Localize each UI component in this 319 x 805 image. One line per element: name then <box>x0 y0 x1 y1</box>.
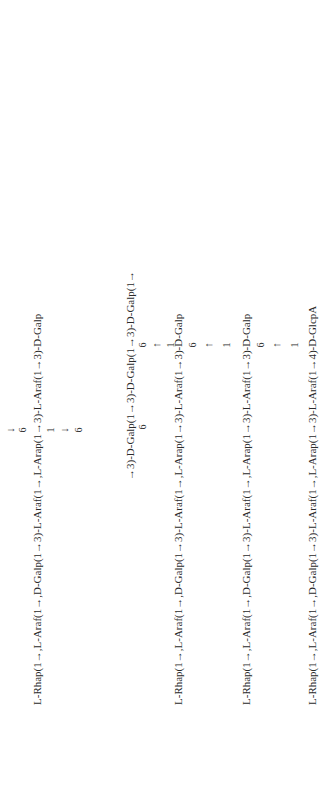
backbone-branch-2: 6 <box>137 343 148 348</box>
side-chain-2-link-arrow: ↑ <box>202 342 214 348</box>
side-chain-3-text: L-Rhap(1→,L-Araf(1→,D-Galp(1→3)-L-Araf(1… <box>306 306 319 705</box>
side-chain-3-link-from: 1 <box>289 343 300 348</box>
diagram-canvas: ↓ 6 L-Rhap(1→,L-Araf(1→,D-Galp(1→3)-L-Ar… <box>0 0 319 805</box>
side-chain-3-link-arrow: ↑ <box>270 342 282 348</box>
top-arrow: ↓ <box>4 427 16 433</box>
backbone-branch-1: 6 <box>137 425 148 430</box>
top-chain-text: L-Rhap(1→,L-Araf(1→,D-Galp(1→3)-L-Araf(1… <box>31 313 44 705</box>
structure-diagram: ↓ 6 L-Rhap(1→,L-Araf(1→,D-Galp(1→3)-L-Ar… <box>0 0 319 805</box>
side-chain-3-link-to: 6 <box>255 343 266 348</box>
top-link-from: 1 <box>45 428 56 433</box>
top-link-arrow: ↓ <box>58 427 70 433</box>
side-chain-2-text: L-Rhap(1→,L-Araf(1→,D-Galp(1→3)-L-Araf(1… <box>240 313 253 705</box>
side-chain-1-text: L-Rhap(1→,L-Araf(1→,D-Galp(1→3)-L-Araf(1… <box>172 313 185 705</box>
side-chain-1-link-arrow: ↑ <box>150 342 162 348</box>
backbone-text: →3)-D-Galp(1→3)-D-Galp(1→3)-D-Galp(1→ <box>124 271 137 480</box>
side-chain-2-link-to: 6 <box>187 343 198 348</box>
top-link-to: 6 <box>73 428 84 433</box>
side-chain-2-link-from: 1 <box>221 343 232 348</box>
top-position-label: 6 <box>17 428 28 433</box>
